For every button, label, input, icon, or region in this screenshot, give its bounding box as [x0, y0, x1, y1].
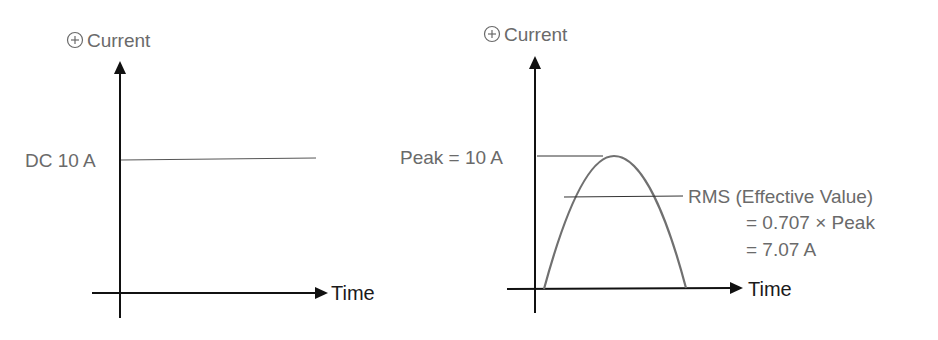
left-x-axis-arrow-icon [315, 287, 328, 299]
plus-circle-icon [485, 27, 500, 42]
rms-reference-line [564, 196, 683, 197]
left-y-axis-label: Current [87, 30, 151, 51]
right-x-axis-label: Time [748, 278, 792, 300]
right-y-axis-arrow-icon [529, 56, 541, 69]
plus-circle-icon [68, 33, 83, 48]
right-x-axis-arrow-icon [730, 282, 743, 294]
right-x-axis [507, 288, 732, 289]
peak-label: Peak = 10 A [400, 147, 503, 168]
diagram-canvas: Current Time DC 10 A Current Time Peak =… [0, 0, 938, 340]
rms-label-line3: = 7.07 A [746, 239, 817, 260]
rms-label-line2: = 0.707 × Peak [746, 212, 875, 233]
left-y-axis-arrow-icon [114, 61, 126, 74]
right-chart: Current Time Peak = 10 A RMS (Effective … [400, 24, 875, 313]
dc-level-line [121, 158, 316, 160]
left-chart: Current Time DC 10 A [25, 30, 375, 318]
dc-level-label: DC 10 A [25, 150, 96, 171]
right-y-axis-label: Current [504, 24, 568, 45]
rms-label-line1: RMS (Effective Value) [688, 186, 873, 207]
ac-waveform-curve [544, 156, 686, 289]
left-x-axis-label: Time [331, 282, 375, 304]
